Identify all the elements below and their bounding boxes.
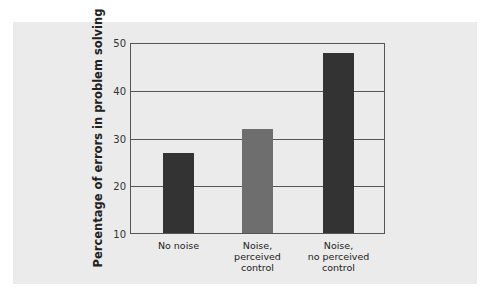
plot-area: [130, 43, 385, 234]
x-tick-label: Noise,perceivedcontrol: [213, 240, 303, 273]
bar: [323, 53, 354, 233]
bar: [163, 153, 194, 233]
y-tick-label: 50: [100, 38, 126, 49]
x-tick-label: No noise: [134, 240, 224, 251]
bar: [242, 129, 273, 233]
y-tick-label: 40: [100, 85, 126, 96]
y-tick-label: 20: [100, 181, 126, 192]
y-tick-label: 10: [100, 229, 126, 240]
y-tick-label: 30: [100, 133, 126, 144]
x-tick-label: Noise,no perceivedcontrol: [294, 240, 384, 273]
